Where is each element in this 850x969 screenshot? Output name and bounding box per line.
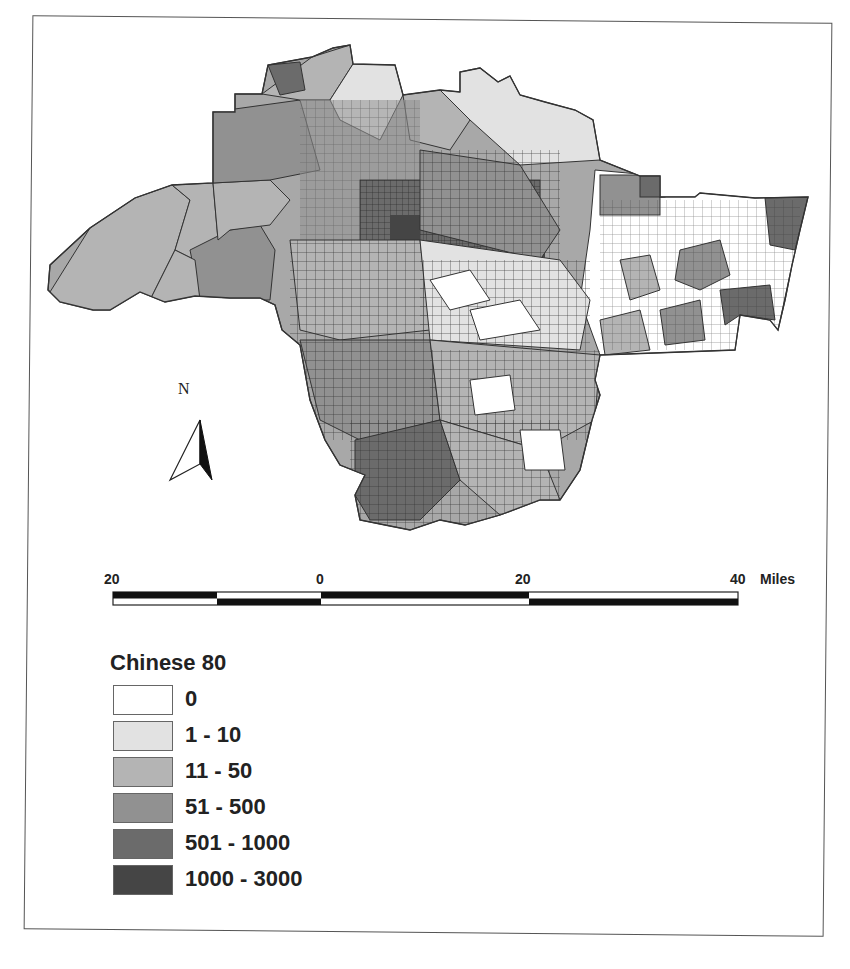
scale-tick-label: 20 bbox=[104, 571, 120, 587]
scale-bar bbox=[113, 592, 738, 605]
legend-swatch bbox=[113, 757, 173, 787]
north-arrow: N bbox=[160, 380, 220, 490]
legend-swatch bbox=[113, 793, 173, 823]
north-arrow-icon bbox=[160, 380, 220, 490]
legend-label: 11 - 50 bbox=[185, 758, 252, 784]
legend-swatch bbox=[113, 721, 173, 751]
legend-label: 1 - 10 bbox=[185, 722, 241, 748]
scale-tick-label: 0 bbox=[316, 571, 324, 587]
scale-tick-label: 40 bbox=[730, 571, 746, 587]
legend-title: Chinese 80 bbox=[110, 650, 226, 676]
legend-label: 1000 - 3000 bbox=[185, 866, 302, 892]
legend-label: 0 bbox=[185, 686, 197, 712]
legend-swatch bbox=[113, 685, 173, 715]
choropleth-map bbox=[0, 0, 850, 969]
legend-swatch bbox=[113, 865, 173, 895]
legend-label: 501 - 1000 bbox=[185, 830, 290, 856]
legend-label: 51 - 500 bbox=[185, 794, 266, 820]
scale-tick-label: 20 bbox=[515, 571, 531, 587]
legend-swatch bbox=[113, 829, 173, 859]
scale-unit-label: Miles bbox=[760, 571, 795, 587]
